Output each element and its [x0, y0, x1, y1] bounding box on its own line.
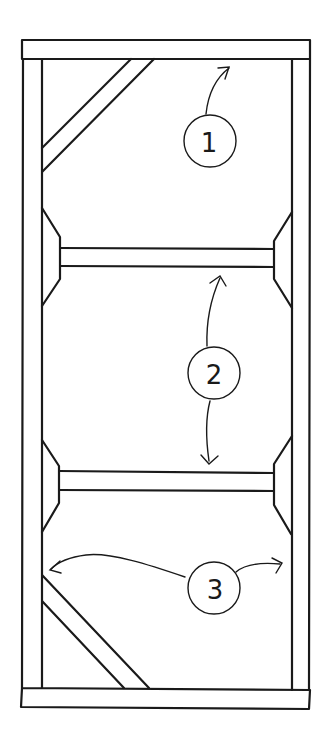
top-rail	[22, 40, 310, 59]
upper-left-block	[42, 208, 60, 306]
right-stile	[292, 59, 310, 690]
arrow-head-down-icon	[201, 455, 218, 464]
left-stile	[22, 59, 42, 688]
callout-3-label: 3	[207, 575, 224, 605]
callout-3: 3	[50, 555, 282, 614]
bottom-rail	[21, 688, 310, 709]
lower-right-block	[274, 436, 292, 534]
upper-right-block	[274, 212, 292, 308]
callout-1: 1	[184, 67, 236, 167]
callout-1-label: 1	[201, 128, 218, 158]
arrow-head-right-icon	[272, 558, 282, 573]
lower-shelf	[42, 436, 292, 534]
frame-diagram: 1 2 3	[0, 0, 327, 739]
callout-2-label: 2	[206, 360, 223, 390]
upper-shelf	[42, 208, 292, 308]
upper-diagonal-brace	[42, 59, 154, 172]
callout-2: 2	[188, 276, 240, 464]
lower-diagonal-brace	[42, 575, 149, 688]
lower-left-block	[42, 440, 59, 532]
